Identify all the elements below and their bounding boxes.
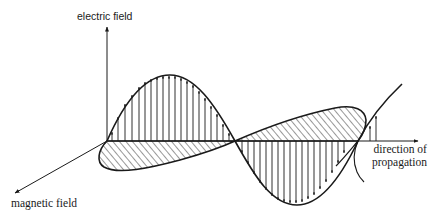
direction-of-propagation-label: direction of propagation [372,143,427,169]
magnetic-field-axis [15,141,107,193]
direction-label-line1: direction of [372,143,427,156]
electric-field-label: electric field [77,10,132,22]
magnetic-field-label: magnetic field [11,197,77,209]
direction-label-line2: propagation [372,156,427,169]
em-wave-figure [0,0,434,223]
em-wave-diagram: electric field magnetic field direction … [0,0,434,223]
